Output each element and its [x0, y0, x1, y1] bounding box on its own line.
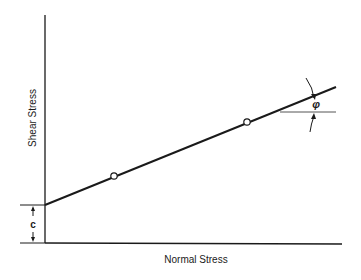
data-point-2	[244, 119, 250, 125]
y-axis-label: Shear Stress	[27, 89, 38, 147]
friction-angle-label: φ	[312, 98, 320, 110]
x-axis	[45, 243, 342, 244]
failure-envelope-diagram: c φ Shear Stress Normal Stress	[0, 0, 361, 280]
x-axis-label: Normal Stress	[164, 254, 227, 265]
cohesion-label: c	[30, 219, 36, 230]
data-point-1	[111, 173, 117, 179]
failure-envelope-line	[45, 87, 336, 205]
